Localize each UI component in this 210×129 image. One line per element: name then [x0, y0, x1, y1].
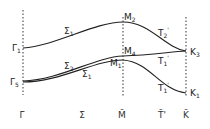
axis-label-k-bar: K̄ [183, 109, 190, 120]
label-k3: K3 [190, 47, 200, 58]
label-m2: M2 [124, 12, 136, 23]
band-t1-prime-lower [123, 60, 186, 93]
label-gamma5: Γ5 [10, 77, 19, 88]
axis-label-m-bar: M̄ [118, 109, 126, 120]
band-structure-diagram: Γ1 Γ5 M2 M4 M1 K3 K1 Σ1 Σ2 Σ1 T2' T1' T1… [0, 0, 210, 129]
label-gamma1: Γ1 [12, 43, 21, 54]
label-m4: M4 [124, 46, 136, 57]
label-sigma2: Σ2 [64, 61, 74, 72]
label-k1: K1 [190, 88, 200, 99]
axis-label-sigma-bar: Σ̄ [79, 110, 85, 120]
band-t2-prime [123, 22, 186, 51]
label-sigma1-upper: Σ1 [64, 26, 74, 37]
label-t2-prime: T2' [157, 26, 169, 39]
axis-label-gamma-bar: Γ̄ [19, 110, 24, 120]
label-t1-prime-lower: T1' [157, 81, 169, 94]
axis-label-t-prime-bar: T̄' [157, 109, 166, 120]
label-sigma1-lower: Σ1 [82, 69, 92, 80]
label-t1-prime-upper: T1' [157, 54, 169, 67]
diagram-canvas: Γ1 Γ5 M2 M4 M1 K3 K1 Σ1 Σ2 Σ1 T2' T1' T1… [0, 0, 210, 129]
